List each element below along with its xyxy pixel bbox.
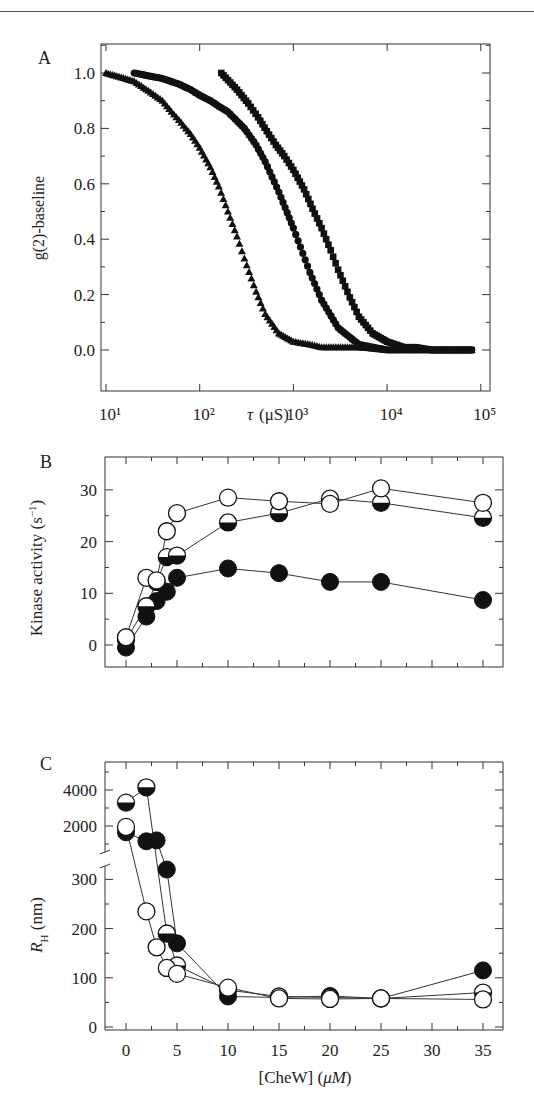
panel-b-ylabel-sup: −1 — [26, 505, 38, 517]
panel-c-xlabel-end: ) — [346, 1068, 352, 1087]
figure-canvas: A 0.00.20.40.60.81.010¹10²10³10⁴10⁵ g(2)… — [0, 0, 534, 1114]
panel-a-xlabel: τ(μS) — [247, 405, 289, 424]
x-tick-label: 10² — [193, 405, 215, 424]
panel-c-xlabel: [CheW] (μM) — [258, 1068, 351, 1087]
y-tick-label: 0.6 — [74, 175, 95, 194]
panel-c-frame — [100, 762, 503, 1030]
series-circles — [131, 69, 476, 353]
panel-a-data — [102, 69, 476, 354]
x-tick-label: 30 — [424, 1041, 441, 1060]
y-tick-label: 0 — [89, 636, 98, 655]
y-tick-label: 300 — [72, 870, 98, 889]
y-tick-label: 2000 — [63, 817, 97, 836]
panel-a: A 0.00.20.40.60.81.010¹10²10³10⁴10⁵ g(2)… — [30, 44, 496, 424]
y-tick-label: 0.4 — [74, 230, 96, 249]
panel-a-letter: A — [38, 48, 51, 68]
panel-c-letter: C — [40, 754, 52, 774]
x-tick-label: 10¹ — [99, 405, 121, 424]
panel-a-axes: 0.00.20.40.60.81.010¹10²10³10⁴10⁵ — [74, 44, 497, 424]
y-tick-label: 20 — [80, 533, 97, 552]
x-tick-label: 10⁴ — [380, 405, 403, 424]
y-tick-label: 0.0 — [74, 341, 95, 360]
panel-c: C 01002003002000400005101520253035 RH (n… — [27, 754, 503, 1087]
y-tick-label: 30 — [80, 481, 97, 500]
panel-c-xlabel-text: [CheW] ( — [258, 1068, 323, 1087]
y-tick-label: 200 — [72, 920, 98, 939]
x-tick-label: 0 — [122, 1041, 131, 1060]
panel-a-ylabel: g(2)-baseline — [30, 176, 48, 260]
x-tick-label: 10³ — [286, 405, 308, 424]
panel-c-ylabel-unit: (nm) — [27, 897, 46, 934]
x-tick-label: 10 — [220, 1041, 237, 1060]
tau-unit: (μS) — [259, 405, 289, 424]
y-tick-label: 1.0 — [74, 64, 95, 83]
panel-c-ylabel: RH (nm) — [27, 897, 50, 954]
panel-b-ylabel-text: Kinase activity (s — [27, 517, 46, 636]
panel-c-ylabel-r: R — [27, 942, 46, 954]
y-tick-label: 10 — [80, 584, 97, 603]
x-tick-label: 5 — [173, 1041, 182, 1060]
x-tick-label: 20 — [322, 1041, 339, 1060]
y-tick-label: 4000 — [63, 781, 97, 800]
panel-c-ylabel-sub: H — [38, 934, 50, 942]
y-tick-label: 0 — [89, 1018, 98, 1037]
series-squares — [218, 70, 475, 354]
panel-b-ylabel-end: ) — [27, 500, 46, 506]
markers-filled-circles — [118, 560, 492, 656]
y-tick-label: 0.8 — [74, 119, 95, 138]
x-tick-label: 10⁵ — [473, 405, 496, 424]
x-tick-label: 25 — [373, 1041, 390, 1060]
panel-b-letter: B — [40, 452, 52, 472]
panel-b-ylabel: Kinase activity (s−1) — [26, 500, 46, 636]
panel-c-xlabel-unit: μM — [322, 1068, 347, 1087]
panel-b-data — [118, 480, 492, 656]
panel-c-data — [118, 779, 492, 1008]
markers-open-circles — [118, 818, 492, 1008]
y-tick-label: 100 — [72, 969, 98, 988]
y-tick-label: 0.2 — [74, 286, 95, 305]
panel-b: B 0102030 Kinase activity (s−1) — [26, 452, 503, 667]
x-tick-label: 35 — [475, 1041, 492, 1060]
tau-symbol: τ — [247, 405, 254, 424]
x-tick-label: 15 — [271, 1041, 288, 1060]
panel-b-axes: 0102030 — [80, 457, 503, 667]
